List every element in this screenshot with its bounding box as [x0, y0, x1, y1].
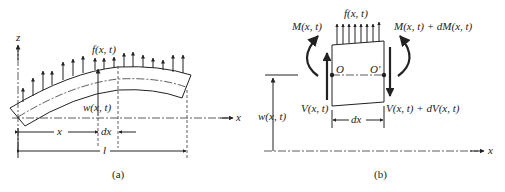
distributed-load-arrows: [23, 52, 183, 102]
element-x-axis-label: x: [487, 144, 493, 156]
shear-right-label: V(x, t) + dV(x, t): [386, 102, 460, 115]
caption-b: (b): [374, 168, 387, 181]
element-load-arrows: [337, 22, 379, 44]
beam-left-end: [10, 108, 25, 126]
z-axis-label: z: [15, 31, 21, 43]
deflection-label: w(x, t): [83, 101, 111, 114]
x-dim-label: x: [56, 125, 62, 137]
figure-a: z x f: [10, 31, 241, 181]
beam-vibration-figure: z x f: [0, 0, 505, 192]
dx-dim-label: dx: [101, 125, 112, 137]
shear-left-label: V(x, t): [301, 102, 329, 115]
load-label: f(x, t): [92, 43, 116, 56]
point-o-prime-label: O': [370, 63, 381, 75]
element-load-label: f(x, t): [344, 7, 368, 20]
moment-left-arrow-icon: [307, 36, 318, 76]
figure-b: O O' f(x, t) M(x, t) M(x, t) + dM(x, t) …: [258, 7, 493, 181]
moment-left-label: M(x, t): [291, 20, 322, 33]
point-o-prime: [382, 73, 386, 77]
point-o: [330, 73, 334, 77]
x-axis-label: x: [235, 111, 241, 123]
length-label: l: [103, 144, 106, 156]
moment-right-arrow-icon: [398, 36, 410, 76]
element-dx-label: dx: [351, 113, 362, 125]
caption-a: (a): [112, 168, 125, 181]
element-deflection-label: w(x, t): [258, 110, 286, 123]
point-o-label: O: [336, 63, 344, 75]
moment-right-label: M(x, t) + dM(x, t): [393, 20, 473, 33]
